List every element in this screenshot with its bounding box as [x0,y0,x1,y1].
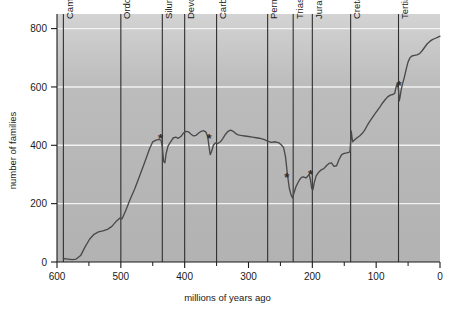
svg-text:Triassic: Triassic [294,0,305,19]
svg-text:600: 600 [49,271,66,282]
svg-text:800: 800 [30,23,47,34]
svg-text:500: 500 [112,271,129,282]
svg-text:Devonian: Devonian [185,0,196,19]
plot-background [57,14,440,262]
svg-text:200: 200 [304,271,321,282]
svg-text:Carboniferous: Carboniferous [217,0,228,19]
x-axis-title: millions of years ago [0,292,455,303]
svg-text:400: 400 [176,271,193,282]
svg-text:Tertiary: Tertiary [399,0,410,19]
svg-text:Silurian: Silurian [163,0,174,19]
y-axis-title: number of families [7,91,18,211]
svg-text:100: 100 [368,271,385,282]
svg-text:Cretaceous: Cretaceous [351,0,362,19]
svg-text:300: 300 [240,271,257,282]
svg-text:600: 600 [30,82,47,93]
diversity-chart-figure: 02004006008006005004003002001000 ***** C… [0,0,455,312]
chart-canvas: 02004006008006005004003002001000 ***** C… [0,0,455,312]
svg-text:Cambrian: Cambrian [64,0,75,19]
svg-text:Jurassic: Jurassic [313,0,324,19]
svg-text:200: 200 [30,198,47,209]
svg-text:400: 400 [30,140,47,151]
svg-text:Ordovician: Ordovician [121,0,132,19]
svg-text:0: 0 [437,271,443,282]
svg-text:Permian: Permian [268,0,279,19]
svg-text:0: 0 [41,257,47,268]
